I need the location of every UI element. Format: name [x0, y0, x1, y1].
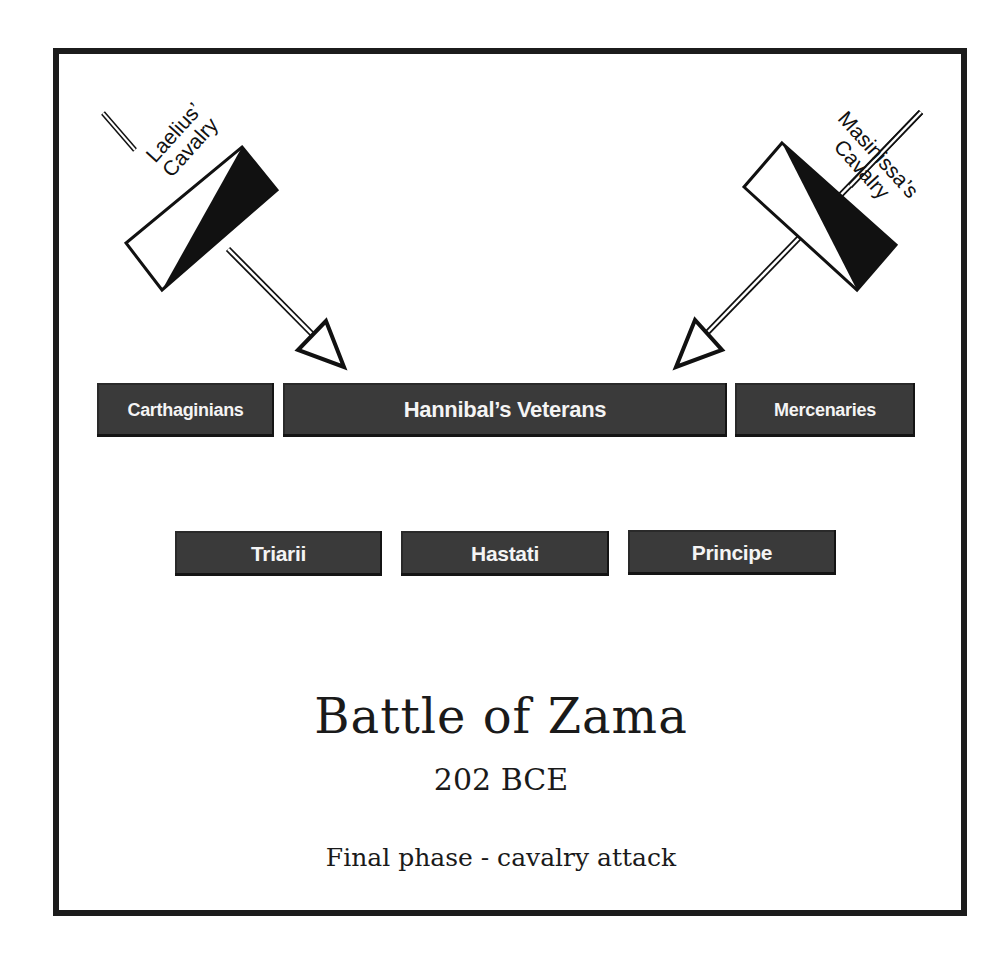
unit-hastati: Hastati — [401, 531, 609, 576]
unit-principe: Principe — [628, 530, 836, 575]
unit-triarii: Triarii — [175, 531, 382, 576]
unit-label: Triarii — [251, 542, 306, 566]
unit-label: Hannibal’s Veterans — [404, 397, 607, 423]
diagram-date: 202 BCE — [0, 762, 1002, 798]
unit-carthaginians: Carthaginians — [97, 383, 274, 437]
unit-mercenaries: Mercenaries — [735, 383, 915, 437]
left-cavalry-trail-icon — [103, 113, 135, 150]
unit-label: Principe — [692, 541, 772, 565]
unit-label: Hastati — [471, 542, 539, 566]
left-cavalry-arrow-icon — [228, 249, 344, 367]
unit-label: Mercenaries — [774, 400, 876, 421]
unit-label: Carthaginians — [127, 400, 243, 421]
diagram-title: Battle of Zama — [0, 686, 1002, 746]
unit-hannibals-veterans: Hannibal’s Veterans — [283, 383, 727, 437]
diagram-subtitle: Final phase - cavalry attack — [0, 842, 1002, 874]
